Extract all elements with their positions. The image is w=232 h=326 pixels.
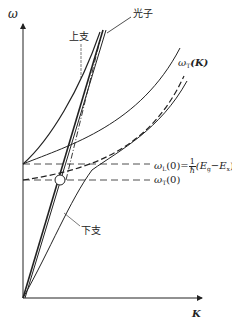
crossing-point (55, 175, 65, 185)
photon-dashdot-line (66, 40, 100, 180)
argument: (K) (190, 57, 208, 68)
upper-branch-curve (23, 32, 100, 164)
omega-symbol: ω (154, 160, 162, 171)
photon-leader (107, 17, 131, 33)
lower-branch-leader (64, 213, 80, 226)
fraction: 1ħ (189, 158, 196, 175)
expr-minus: −E (211, 160, 227, 171)
omega-L0-label: ωL(0)=1ħ(Eg−Ex) (154, 158, 232, 175)
argument: (0)= (166, 160, 189, 171)
omega-symbol: ω (154, 174, 162, 185)
omega-T0-label: ωT(0) (154, 175, 180, 186)
lower-branch-label: 下支 (81, 226, 101, 236)
x-axis-label: K (192, 309, 201, 319)
omega-symbol: ω (178, 57, 186, 68)
upper-branch-label: 上支 (69, 32, 89, 42)
argument: (0) (166, 174, 180, 185)
close-paren: ) (230, 160, 232, 171)
lower-branch-curve (23, 81, 187, 298)
expr: (E (196, 160, 207, 171)
omega-T-K-curve (23, 48, 180, 164)
photon-label: 光子 (133, 9, 153, 19)
omega-T-K-label: ωT(K) (178, 58, 208, 69)
denominator: ħ (189, 167, 196, 175)
y-axis-label: ω (8, 8, 18, 20)
